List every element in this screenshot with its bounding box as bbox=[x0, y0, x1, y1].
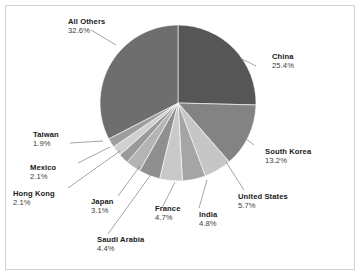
pie-label-japan-name: Japan bbox=[91, 198, 113, 206]
pie-label-all-others-value: 32.6% bbox=[68, 27, 105, 35]
pie-label-mexico-value: 2.1% bbox=[30, 173, 56, 181]
pie-label-japan: Japan 3.1% bbox=[91, 198, 113, 215]
pie-label-all-others: All Others 32.6% bbox=[68, 18, 105, 35]
pie-slices-group bbox=[100, 25, 256, 181]
pie-label-china-name: China bbox=[272, 53, 294, 61]
pie-label-france: France 4.7% bbox=[155, 205, 181, 222]
pie-label-south-korea-value: 13.2% bbox=[265, 157, 311, 165]
pie-label-mexico: Mexico 2.1% bbox=[30, 164, 56, 181]
pie-label-taiwan: Taiwan 1.9% bbox=[33, 131, 59, 148]
leader-line-india bbox=[199, 180, 207, 208]
leader-line-united-states bbox=[226, 162, 244, 190]
pie-label-india-name: India bbox=[199, 211, 217, 219]
pie-slice-china bbox=[178, 25, 256, 105]
pie-label-hong-kong: Hong Kong 2.1% bbox=[13, 190, 55, 207]
pie-label-south-korea: South Korea 13.2% bbox=[265, 148, 311, 165]
leader-line-hong-kong bbox=[68, 151, 120, 188]
pie-label-hong-kong-name: Hong Kong bbox=[13, 190, 55, 198]
pie-label-all-others-name: All Others bbox=[68, 18, 105, 26]
pie-label-india-value: 4.8% bbox=[199, 220, 217, 228]
pie-label-japan-value: 3.1% bbox=[91, 207, 113, 215]
pie-label-saudi-arabia: Saudi Arabia 4.4% bbox=[97, 236, 144, 253]
leader-line-taiwan bbox=[70, 141, 103, 143]
pie-label-taiwan-name: Taiwan bbox=[33, 131, 59, 139]
pie-label-mexico-name: Mexico bbox=[30, 164, 56, 172]
pie-label-china-value: 25.4% bbox=[272, 62, 294, 70]
pie-label-france-value: 4.7% bbox=[155, 214, 181, 222]
pie-label-china: China 25.4% bbox=[272, 53, 294, 70]
pie-label-south-korea-name: South Korea bbox=[265, 148, 311, 156]
leader-line-japan bbox=[118, 166, 140, 196]
pie-label-india: India 4.8% bbox=[199, 211, 217, 228]
pie-label-hong-kong-value: 2.1% bbox=[13, 199, 55, 207]
pie-label-france-name: France bbox=[155, 205, 181, 213]
pie-label-united-states-value: 5.7% bbox=[238, 202, 288, 210]
leader-line-saudi-arabia bbox=[108, 173, 152, 234]
leader-line-mexico bbox=[78, 147, 110, 163]
pie-label-saudi-arabia-value: 4.4% bbox=[97, 245, 144, 253]
pie-label-united-states: United States 5.7% bbox=[238, 193, 288, 210]
pie-label-taiwan-value: 1.9% bbox=[33, 140, 59, 148]
pie-chart-figure: All Others 32.6% China 25.4% South Korea… bbox=[0, 0, 360, 275]
pie-label-united-states-name: United States bbox=[238, 193, 288, 201]
pie-label-saudi-arabia-name: Saudi Arabia bbox=[97, 236, 144, 244]
